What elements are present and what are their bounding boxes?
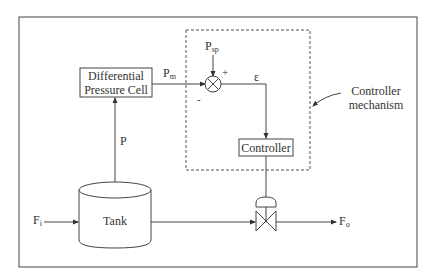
- plus-sign: +: [222, 67, 228, 78]
- psp-label: Psp: [205, 40, 219, 54]
- tank-label: Tank: [79, 214, 151, 228]
- valve-actuator: [256, 197, 276, 207]
- annotation-line2: mechanism: [340, 98, 412, 112]
- dp-cell-line2: Pressure Cell: [80, 83, 152, 97]
- controller-mechanism-annotation: Controller mechanism: [340, 84, 412, 112]
- pressure-label: P: [120, 135, 127, 147]
- dp-cell-label: Differential Pressure Cell: [80, 69, 152, 97]
- dp-cell-line1: Differential: [80, 69, 152, 83]
- minus-sign: -: [197, 94, 201, 105]
- error-label: ε: [254, 71, 259, 83]
- process-control-diagram: Differential Pressure Cell Controller Ta…: [0, 0, 428, 280]
- outflow-label: Fo: [339, 215, 350, 229]
- inflow-label: Fi: [33, 214, 42, 228]
- annotation-line1: Controller: [340, 84, 412, 98]
- pm-label: Pm: [163, 67, 176, 81]
- tank-top: [79, 182, 151, 198]
- controller-label: Controller: [239, 141, 293, 155]
